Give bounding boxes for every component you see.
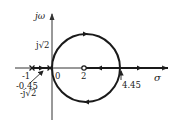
imag-axis-label: jω: [33, 11, 46, 21]
arrow-top-icon: [83, 32, 88, 37]
imaginary-axis-arrow-icon: [50, 13, 55, 20]
upper-crossing-label: j√2: [35, 40, 49, 50]
axes: [15, 13, 168, 120]
arrow-real-neg-icon: [39, 66, 44, 71]
arrow-real-right-icon: [137, 66, 142, 71]
breakin-label: 4.45: [122, 80, 141, 90]
arrow-real-left-icon: [97, 66, 102, 71]
pole-minus-one-label: -1: [22, 71, 30, 81]
root-locus-diagram: jω σ j√2 -j√2 -1 0 2 -0.45 4.45: [0, 0, 185, 127]
zero-label: 2: [81, 71, 86, 81]
pole-zero-label: 0: [55, 71, 60, 81]
zero-marker: [82, 66, 86, 70]
arrow-bottom-icon: [84, 100, 89, 105]
real-axis-label: σ: [154, 72, 162, 83]
breakaway-label: -0.45: [16, 81, 38, 91]
